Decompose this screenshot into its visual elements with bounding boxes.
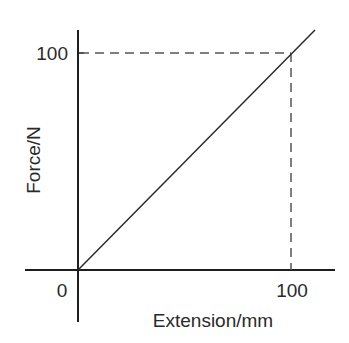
x-axis-label: Extension/mm xyxy=(153,310,273,331)
y-tick-label-100: 100 xyxy=(36,43,68,64)
y-axis-label: Force/N xyxy=(23,126,44,194)
x-tick-label-100: 100 xyxy=(276,280,308,301)
data-line xyxy=(78,30,315,270)
origin-label: 0 xyxy=(57,280,68,301)
force-extension-chart: 100 0 100 Extension/mm Force/N xyxy=(0,0,349,343)
